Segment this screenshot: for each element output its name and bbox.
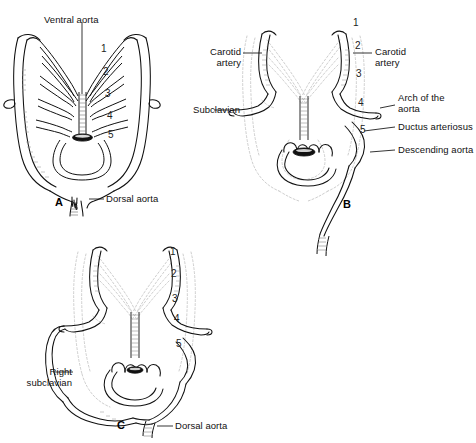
aortic-arch-figure: Ventral aorta Dorsal aorta A 1 2 3 4 5 C…	[0, 0, 476, 443]
arch-number-b-4: 4	[358, 97, 364, 108]
label-right-subclavian: Right subclavian	[8, 366, 72, 388]
arch-number-c-3: 3	[172, 293, 178, 304]
arch-number-a-4: 4	[107, 110, 113, 121]
panel-b-leaders	[214, 53, 395, 152]
arch-number-a-2: 2	[103, 66, 109, 77]
label-dorsal-aorta-a: Dorsal aorta	[106, 193, 158, 204]
arch-number-c-1: 1	[170, 246, 176, 257]
arch-number-b-2: 2	[355, 40, 361, 51]
panel-a-aortic-sac-highlight	[75, 135, 90, 138]
panel-b-descending-tail	[317, 234, 329, 256]
panel-c-artwork	[46, 247, 212, 426]
panel-a-wall-shading	[22, 70, 49, 177]
panel-letter-c: C	[117, 419, 125, 431]
label-ventral-aorta: Ventral aorta	[44, 14, 99, 25]
panel-b-wall-shading	[262, 50, 349, 85]
panel-a-ventral-aorta-hatch	[79, 95, 86, 131]
arch-number-c-4: 4	[174, 313, 180, 324]
panel-a-ventral-aorta	[79, 92, 86, 134]
arch-number-a-5: 5	[108, 129, 114, 140]
arch-number-a-1: 1	[101, 43, 107, 54]
label-arch-of-the-aorta: Arch of the aorta	[398, 92, 445, 114]
panel-b-ventral-aorta-hatch	[300, 99, 308, 135]
arch-number-b-5: 5	[360, 124, 366, 135]
arch-number-a-3: 3	[105, 88, 111, 99]
panel-b-aortic-sac-highlight	[296, 149, 312, 152]
label-dorsal-aorta-c: Dorsal aorta	[175, 420, 227, 431]
label-ductus-arteriosus: Ductus arteriosus	[398, 121, 473, 132]
panel-c-wall-shading	[93, 266, 180, 421]
panel-letter-b: B	[343, 198, 351, 210]
label-subclavian: Subclavian	[178, 104, 240, 115]
panel-c-ventral-aorta-hatch	[131, 315, 139, 355]
arch-number-c-2: 2	[171, 268, 177, 279]
label-carotid-artery-left: Carotid artery	[183, 46, 241, 68]
arch-number-b-3: 3	[356, 68, 362, 79]
panel-b-artwork	[229, 31, 381, 236]
label-descending-aorta: Descending aorta	[398, 144, 473, 155]
arch-number-c-5: 5	[176, 338, 182, 349]
label-carotid-artery-right: Carotid artery	[375, 46, 406, 68]
panel-letter-a: A	[55, 196, 63, 208]
panel-c-leaders	[55, 372, 173, 426]
panel-c-aortic-sac-highlight	[130, 368, 141, 370]
arch-number-b-1: 1	[353, 17, 359, 28]
